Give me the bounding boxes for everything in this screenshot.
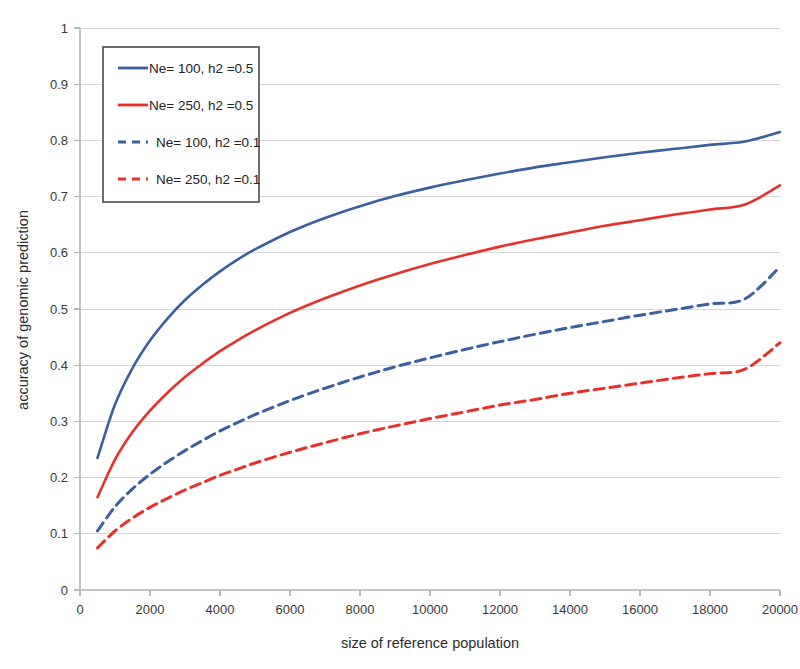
chart-legend: Ne= 100, h2 =0.5Ne= 250, h2 =0.5Ne= 100,… xyxy=(103,47,260,202)
y-tick-label: 0 xyxy=(61,583,68,598)
y-tick-label: 0.8 xyxy=(50,133,68,148)
x-tick-label: 18000 xyxy=(692,602,728,617)
series-line-4 xyxy=(98,343,781,548)
x-tick-label: 2000 xyxy=(136,602,165,617)
x-axis-tick-labels: 0200040006000800010000120001400016000180… xyxy=(76,602,798,617)
x-tick-label: 10000 xyxy=(412,602,448,617)
y-axis-tick-labels: 00.10.20.30.40.50.60.70.80.91 xyxy=(50,21,68,598)
legend-label-3: Ne= 100, h2 =0.1 xyxy=(156,135,260,150)
y-tick-label: 0.4 xyxy=(50,358,68,373)
x-tick-label: 0 xyxy=(76,602,83,617)
y-tick-label: 0.9 xyxy=(50,77,68,92)
legend-label-2: Ne= 250, h2 =0.5 xyxy=(149,98,253,113)
y-axis-title: accuracy of genomic prediction xyxy=(15,210,31,410)
series-line-3 xyxy=(98,267,781,531)
y-tick-label: 1 xyxy=(61,21,68,36)
y-tick-label: 0.5 xyxy=(50,302,68,317)
x-tick-label: 20000 xyxy=(762,602,798,617)
x-axis-title: size of reference population xyxy=(341,635,519,651)
legend-label-4: Ne= 250, h2 =0.1 xyxy=(156,172,260,187)
x-tick-label: 6000 xyxy=(276,602,305,617)
series-line-2 xyxy=(98,185,781,497)
x-tick-label: 16000 xyxy=(622,602,658,617)
x-tick-label: 8000 xyxy=(346,602,375,617)
y-tick-label: 0.3 xyxy=(50,414,68,429)
y-tick-label: 0.7 xyxy=(50,189,68,204)
genomic-prediction-accuracy-chart: 00.10.20.30.40.50.60.70.80.91 0200040006… xyxy=(0,0,800,669)
x-tick-label: 4000 xyxy=(206,602,235,617)
legend-label-1: Ne= 100, h2 =0.5 xyxy=(149,61,253,76)
x-tick-label: 14000 xyxy=(552,602,588,617)
x-tick-label: 12000 xyxy=(482,602,518,617)
y-tick-label: 0.2 xyxy=(50,470,68,485)
y-tick-label: 0.6 xyxy=(50,245,68,260)
y-tick-label: 0.1 xyxy=(50,526,68,541)
chart-svg: 00.10.20.30.40.50.60.70.80.91 0200040006… xyxy=(0,0,800,669)
